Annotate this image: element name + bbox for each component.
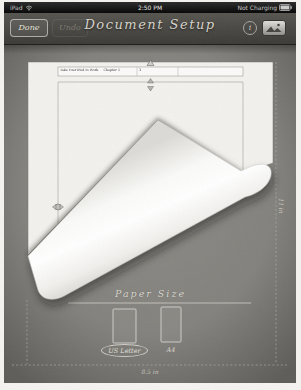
blueprint-canvas xyxy=(0,0,301,390)
page-height-label: 11 in xyxy=(277,193,285,219)
paper-option-us-letter[interactable]: US Letter xyxy=(101,344,148,357)
page-width-label: 8.5 in xyxy=(115,368,185,375)
header-text: Take Your iPad to Work Chapter 1 xyxy=(60,68,140,72)
paper-option-a4[interactable]: A4 xyxy=(159,345,183,356)
scan-grain xyxy=(4,2,296,383)
header-page-number: 1 xyxy=(139,68,149,73)
document-setup-screen: iPad 2:50 PM Not Charging Done Undo Docu… xyxy=(0,0,301,390)
paper-size-title: Paper Size xyxy=(90,288,211,299)
